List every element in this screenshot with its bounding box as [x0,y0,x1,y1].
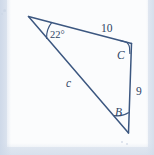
angle-a-label: 22° [50,30,65,41]
side-ab-label: c [66,78,71,90]
side-cb-line [129,44,132,134]
side-ac-line [29,17,132,44]
side-ab-line [29,17,129,134]
side-cb-label: 9 [136,86,142,98]
scan-speck [3,9,6,12]
side-ac-label: 10 [101,23,113,35]
figure-container: 22° C B 10 9 c [0,0,154,155]
scan-speck [126,143,128,145]
scan-speck [1,13,3,15]
vertex-b-label: B [115,107,122,119]
triangle-figure [0,0,154,155]
scan-speck [121,141,123,143]
vertex-c-label: C [117,50,125,62]
